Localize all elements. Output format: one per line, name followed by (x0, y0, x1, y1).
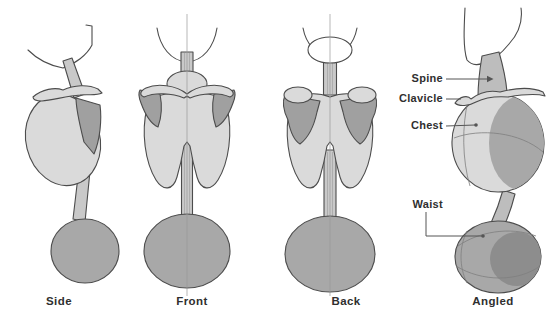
anatomy-diagram: Side Front Back Angled Spine Clavicle Ch… (0, 0, 554, 324)
annotation-chest: Chest (323, 119, 443, 132)
annotation-clavicle: Clavicle (323, 92, 443, 105)
angled-neck-spine (478, 52, 507, 97)
annotation-waist: Waist (323, 198, 443, 211)
caption-back: Back (306, 295, 386, 307)
chest-leader-dot (474, 123, 478, 127)
figure-back (284, 14, 377, 296)
back-left-shoulder-cap (284, 87, 312, 103)
annotation-spine: Spine (323, 72, 443, 85)
figure-side (16, 25, 119, 283)
figure-front (139, 14, 235, 296)
caption-side: Side (19, 295, 99, 307)
figure-angled (449, 8, 553, 293)
side-waist (51, 219, 119, 283)
diagram-canvas (0, 0, 554, 324)
waist-leader-dot (481, 234, 485, 238)
side-head-outline (28, 25, 92, 68)
caption-front: Front (152, 295, 232, 307)
angled-head-outline-right (496, 8, 521, 57)
angled-chest-shading (489, 96, 553, 190)
caption-angled: Angled (453, 295, 533, 307)
